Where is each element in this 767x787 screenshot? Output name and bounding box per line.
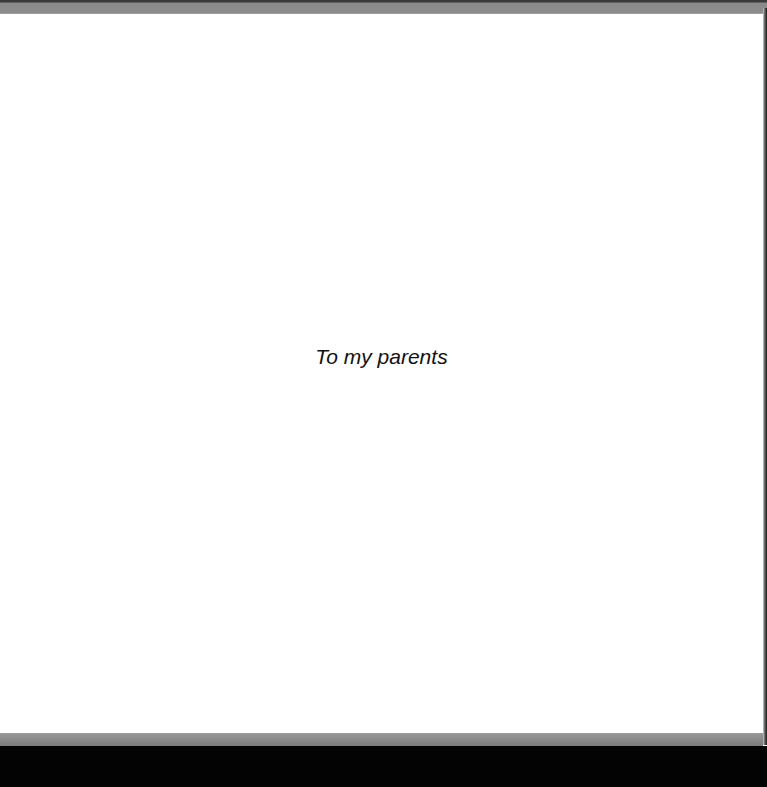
top-page-edge	[0, 0, 767, 14]
dedication-text: To my parents	[0, 345, 763, 369]
bottom-dark-bar	[0, 746, 767, 787]
right-page-edge	[763, 8, 767, 745]
bottom-page-edge	[0, 733, 763, 746]
book-page	[0, 14, 763, 733]
